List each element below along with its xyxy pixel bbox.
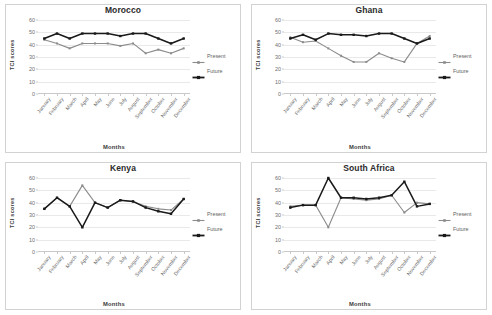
x-tick-label: March: [64, 96, 78, 111]
legend-item-future[interactable]: Future: [192, 67, 238, 74]
x-tick-mark: [379, 252, 380, 254]
chart-title: Morocco: [0, 5, 246, 15]
x-tick-label: June: [350, 254, 362, 267]
data-point-marker: [68, 205, 70, 207]
series-layer: [284, 20, 436, 94]
chart-legend: PresentFuture: [438, 210, 484, 240]
data-point-marker: [56, 32, 58, 34]
chart-title: Ghana: [246, 5, 492, 15]
y-tick-label: 0: [32, 91, 35, 97]
x-axis-title: Months: [284, 301, 436, 307]
legend-item-present[interactable]: Present: [438, 210, 484, 217]
series-layer: [38, 178, 190, 252]
data-point-marker: [170, 213, 172, 215]
legend-marker-present-icon: [192, 210, 205, 217]
legend-marker-present-icon: [192, 52, 205, 59]
x-tick-label: March: [310, 254, 324, 269]
x-tick-mark: [303, 94, 304, 96]
data-point-marker: [68, 37, 70, 39]
x-tick-mark: [133, 252, 134, 254]
y-tick-label: 30: [275, 212, 281, 218]
y-tick-label: 60: [275, 175, 281, 181]
x-tick-label: July: [364, 96, 374, 107]
x-tick-mark: [108, 252, 109, 254]
x-tick-label: May: [338, 96, 349, 107]
x-tick-label: March: [310, 96, 324, 111]
y-tick-label: 50: [29, 187, 35, 193]
x-tick-mark: [366, 94, 367, 96]
data-point-marker: [428, 37, 430, 39]
data-point-marker: [56, 197, 58, 199]
y-tick-label: 60: [29, 17, 35, 23]
x-tick-mark: [95, 94, 96, 96]
x-tick-mark: [82, 94, 83, 96]
data-point-marker: [390, 32, 392, 34]
legend-label-future: Future: [453, 68, 469, 74]
chart-panel-south-africa: South AfricaTCI scoresMonths010203040506…: [246, 158, 492, 315]
legend-item-future[interactable]: Future: [192, 225, 238, 232]
x-axis-title: Months: [38, 301, 190, 307]
data-point-marker: [94, 42, 96, 44]
chart-title: South Africa: [246, 163, 492, 173]
y-axis-title: TCI scores: [9, 197, 15, 228]
data-point-marker: [170, 52, 172, 54]
y-tick-label: 60: [275, 17, 281, 23]
legend-item-present[interactable]: Present: [192, 210, 238, 217]
data-point-marker: [94, 201, 96, 203]
x-tick-mark: [417, 94, 418, 96]
data-point-marker: [403, 181, 405, 183]
x-tick-label: April: [325, 96, 336, 108]
x-tick-mark: [379, 94, 380, 96]
x-tick-mark: [354, 94, 355, 96]
data-point-marker: [352, 197, 354, 199]
figure-four-panel-line-charts: MoroccoTCI scoresMonths0102030405060Janu…: [0, 0, 492, 315]
x-tick-mark: [70, 252, 71, 254]
y-tick-label: 10: [275, 237, 281, 243]
series-line: [44, 198, 183, 228]
y-tick-label: 10: [275, 79, 281, 85]
series-future: [289, 32, 431, 44]
data-point-marker: [390, 194, 392, 196]
x-tick-mark: [404, 252, 405, 254]
legend-marker-present-icon: [438, 52, 451, 59]
series-line: [44, 34, 183, 44]
x-tick-mark: [120, 252, 121, 254]
x-tick-mark: [328, 252, 329, 254]
data-point-marker: [327, 177, 329, 179]
data-point-marker: [378, 32, 380, 34]
series-present: [43, 184, 184, 211]
data-point-marker: [416, 42, 418, 44]
data-point-marker: [132, 200, 134, 202]
x-axis-tick-labels: JanuaryFebruaryMarchAprilMayJuneJulyAugu…: [284, 254, 436, 294]
data-point-marker: [182, 37, 184, 39]
data-point-marker: [43, 37, 45, 39]
legend-item-present[interactable]: Present: [192, 52, 238, 59]
x-tick-mark: [392, 94, 393, 96]
data-point-marker: [327, 47, 329, 49]
legend-item-future[interactable]: Future: [438, 67, 484, 74]
data-point-marker: [107, 42, 109, 44]
chart-panel-ghana: GhanaTCI scoresMonths0102030405060Januar…: [246, 0, 492, 158]
x-tick-mark: [430, 94, 431, 96]
data-point-marker: [302, 204, 304, 206]
data-point-marker: [327, 32, 329, 34]
data-point-marker: [353, 61, 355, 63]
data-point-marker: [157, 210, 159, 212]
series-layer: [38, 20, 190, 94]
x-tick-label: June: [104, 254, 116, 267]
data-point-marker: [157, 49, 159, 51]
legend-item-future[interactable]: Future: [438, 225, 484, 232]
y-tick-label: 50: [275, 29, 281, 35]
y-tick-label: 30: [275, 54, 281, 60]
legend-item-present[interactable]: Present: [438, 52, 484, 59]
data-point-marker: [144, 206, 146, 208]
x-tick-mark: [57, 252, 58, 254]
data-point-marker: [302, 41, 304, 43]
series-present: [289, 35, 430, 63]
chart-legend: PresentFuture: [192, 210, 238, 240]
y-tick-label: 40: [275, 42, 281, 48]
x-tick-mark: [158, 94, 159, 96]
y-tick-label: 30: [29, 212, 35, 218]
x-axis-tick-labels: JanuaryFebruaryMarchAprilMayJuneJulyAugu…: [38, 96, 190, 136]
series-line: [290, 195, 429, 227]
